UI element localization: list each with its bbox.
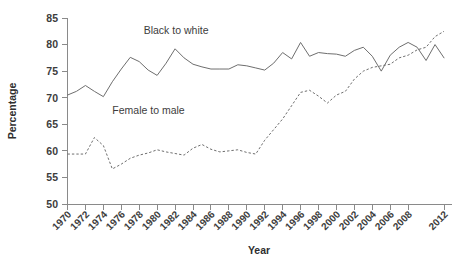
x-tick-label: 1986 bbox=[193, 208, 217, 232]
x-tick-label: 1998 bbox=[301, 208, 325, 232]
x-axis: 1970197219741976197819801982198419861988… bbox=[50, 205, 452, 233]
y-axis: 8580757065605550 bbox=[46, 12, 67, 210]
x-tick-label: 1982 bbox=[157, 208, 181, 232]
x-tick-label: 1994 bbox=[265, 208, 289, 232]
x-tick-label: 2012 bbox=[426, 208, 450, 232]
line-chart: 8580757065605550 19701972197419761978198… bbox=[0, 0, 464, 263]
series-lines bbox=[68, 31, 445, 169]
x-tick-label: 2006 bbox=[373, 208, 397, 232]
x-tick-label: 1980 bbox=[140, 208, 164, 232]
x-tick-label: 1972 bbox=[68, 208, 92, 232]
x-tick-label: 2004 bbox=[355, 208, 379, 232]
x-tick-label: 2002 bbox=[337, 208, 361, 232]
x-axis-tick-labels: 1970197219741976197819801982198419861988… bbox=[50, 208, 450, 232]
y-axis-ticks bbox=[62, 18, 68, 204]
x-tick-label: 1988 bbox=[211, 208, 235, 232]
series-line-female-to-male bbox=[68, 31, 445, 169]
y-tick-label: 70 bbox=[46, 92, 58, 104]
y-tick-label: 85 bbox=[46, 12, 58, 24]
x-tick-label: 1992 bbox=[247, 208, 271, 232]
x-tick-label: 1984 bbox=[175, 208, 199, 232]
annotation-black-to-white: Black to white bbox=[144, 24, 209, 36]
y-tick-label: 60 bbox=[46, 145, 58, 157]
y-tick-label: 75 bbox=[46, 65, 58, 77]
x-tick-label: 1978 bbox=[122, 208, 146, 232]
x-tick-label: 1976 bbox=[104, 208, 128, 232]
y-tick-label: 80 bbox=[46, 38, 58, 50]
y-axis-title: Percentage bbox=[6, 83, 18, 140]
series-line-black-to-white bbox=[68, 42, 445, 96]
x-tick-label: 1990 bbox=[229, 208, 253, 232]
x-tick-label: 2008 bbox=[391, 208, 415, 232]
y-tick-label: 55 bbox=[46, 171, 58, 183]
y-axis-tick-labels: 8580757065605550 bbox=[46, 12, 58, 210]
y-tick-label: 65 bbox=[46, 118, 58, 130]
chart-container: 8580757065605550 19701972197419761978198… bbox=[0, 0, 464, 263]
x-axis-title: Year bbox=[248, 244, 270, 256]
y-tick-label: 50 bbox=[46, 198, 58, 210]
series-annotations: Black to white Female to male bbox=[112, 24, 208, 116]
x-tick-label: 2000 bbox=[319, 208, 343, 232]
x-tick-label: 1974 bbox=[86, 208, 110, 232]
x-tick-label: 1996 bbox=[283, 208, 307, 232]
annotation-female-to-male: Female to male bbox=[112, 104, 185, 116]
x-tick-label: 1970 bbox=[50, 208, 74, 232]
